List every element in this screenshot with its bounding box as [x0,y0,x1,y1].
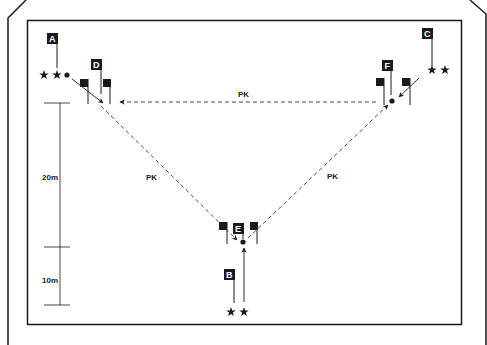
scale-label-10m: 10m [42,276,58,285]
pass-line-e-to-f [248,105,388,238]
flag-icon [250,222,258,244]
star-icon [226,307,236,316]
drill-diagram: 20m 10m PK PK PK A D C [0,0,487,345]
star-icon [52,70,62,79]
station-e: E [219,200,258,245]
pass-label: PK [146,173,157,182]
station-label: F [385,61,391,71]
ball-icon [240,239,245,244]
pass-lines: PK PK PK [101,90,388,240]
station-f: F [376,60,410,105]
pass-line-d-to-e [101,106,237,240]
flag-icon [80,79,88,104]
flag-icon [402,78,410,105]
station-label: B [226,270,233,280]
station-label: A [49,34,56,44]
star-icon [440,65,450,74]
pass-label: PK [327,172,338,181]
pass-label: PK [238,90,249,99]
star-icon [39,70,49,79]
station-b: B [224,248,249,316]
station-label: D [93,60,100,70]
ball-icon [64,72,69,77]
star-icon [427,65,437,74]
outer-frame [8,0,486,345]
station-c: C [399,28,450,97]
flag-icon [376,78,384,105]
station-label: C [424,29,431,39]
distance-scale: 20m 10m [42,103,70,305]
ball-icon [389,98,394,103]
station-label: E [235,224,241,234]
scale-label-20m: 20m [42,173,58,182]
flag-icon [219,222,227,244]
star-icon [239,307,249,316]
flag-icon [103,79,111,104]
